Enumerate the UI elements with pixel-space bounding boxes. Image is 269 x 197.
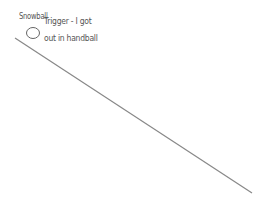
annotation-line-1: Trigger - I got [44, 13, 98, 30]
diagram-canvas [0, 0, 269, 197]
trigger-annotation: Trigger - I got out in handball [44, 13, 98, 47]
slope-line [15, 38, 252, 193]
annotation-line-2: out in handball [44, 30, 98, 47]
snowball-circle [27, 28, 40, 39]
